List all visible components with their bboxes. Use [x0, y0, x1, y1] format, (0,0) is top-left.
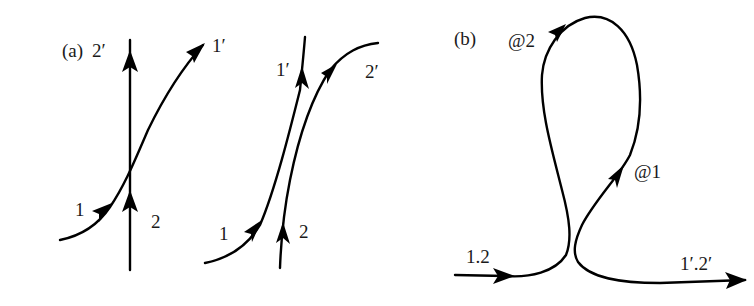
label-output: 1′.2′ — [680, 253, 712, 274]
arrow-icon — [548, 24, 566, 42]
panel-b-label: (b) — [454, 28, 476, 50]
label-2: 2 — [151, 211, 161, 232]
panel-b: (b) @2 @1 1.2 1′.2′ — [454, 17, 747, 289]
panel-a-crossing: 2′ 1′ 1 2 — [60, 35, 226, 270]
arrow-up-icon — [295, 66, 309, 89]
label-1: 1 — [219, 223, 229, 244]
arrow-icon — [186, 43, 205, 63]
trajectory-diagram: (a) 2′ 1′ 1 2 1′ 2′ — [0, 0, 754, 306]
arrow-icon — [92, 203, 112, 222]
label-2: 2 — [299, 221, 309, 242]
label-at-2: @2 — [508, 30, 535, 51]
trajectory-loop — [455, 17, 745, 283]
label-1-prime: 1′ — [212, 35, 226, 56]
label-2-prime: 2′ — [365, 61, 379, 82]
label-2-prime: 2′ — [92, 40, 106, 61]
panel-a: (a) 2′ 1′ 1 2 1′ 2′ — [60, 35, 379, 270]
label-1-prime: 1′ — [276, 59, 290, 80]
arrow-icon — [244, 220, 262, 242]
panel-a-label: (a) — [62, 40, 83, 62]
panel-a-noncrossing: 1′ 2′ 1 2 — [205, 37, 379, 268]
label-at-1: @1 — [634, 161, 661, 182]
label-1: 1 — [75, 199, 85, 220]
arrow-up-icon — [276, 222, 290, 244]
label-input: 1.2 — [466, 246, 490, 267]
